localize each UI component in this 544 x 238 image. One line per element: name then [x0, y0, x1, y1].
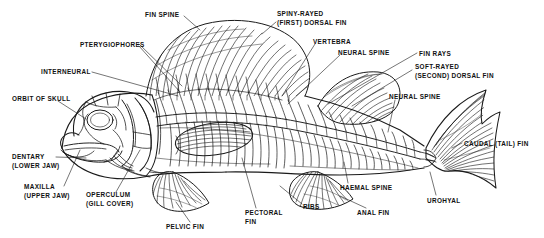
haemal-spines [290, 130, 413, 170]
label-pectoral-fin: PECTORAL FIN [245, 209, 283, 226]
spiny-dorsal-fin [146, 20, 312, 101]
label-soft-rayed-dorsal: SOFT-RAYED (SECOND) DORSAL FIN [415, 63, 494, 80]
label-orbit-of-skull: ORBIT OF SKULL [12, 95, 71, 104]
label-maxilla: MAXILLA (UPPER JAW) [24, 183, 70, 200]
label-pelvic-fin: PELVIC FIN [166, 223, 204, 232]
label-anal-fin: ANAL FIN [357, 209, 390, 218]
label-fin-spine: FIN SPINE [145, 11, 179, 20]
label-haemal-spine: HAEMAL SPINE [340, 184, 392, 193]
label-pterygiophores: PTERYGIOPHORES [80, 41, 145, 50]
label-dentary: DENTARY (LOWER JAW) [12, 153, 60, 170]
label-vertebra: VERTEBRA [313, 38, 351, 47]
label-caudal-tail-fin: CAUDAL (TAIL) FIN [464, 140, 529, 149]
label-interneural: INTERNEURAL [41, 68, 91, 77]
label-spiny-rayed-dorsal: SPINY-RAYED (FIRST) DORSAL FIN [277, 10, 347, 27]
label-ribs: RIBS [303, 203, 320, 212]
fish-skeleton-illustration [0, 0, 544, 238]
label-neural-spine-lower: NEURAL SPINE [389, 93, 441, 102]
soft-dorsal-fin [318, 72, 400, 125]
label-neural-spine-upper: NEURAL SPINE [338, 49, 390, 58]
body-detail [156, 128, 418, 170]
fish-skeleton-diagram: FIN SPINESPINY-RAYED (FIRST) DORSAL FINP… [0, 0, 544, 238]
caudal-fin [424, 90, 500, 188]
label-fin-rays: FIN RAYS [419, 50, 451, 59]
pectoral-fin [173, 118, 255, 161]
label-urohyal: UROHYAL [427, 197, 460, 206]
label-operculum: OPERCULUM (GILL COVER) [86, 191, 133, 208]
